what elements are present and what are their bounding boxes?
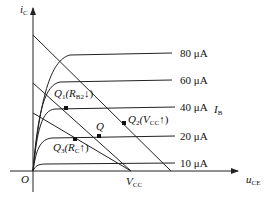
origin-label: O — [21, 174, 29, 185]
q2-label: Q2(VCC↑) — [128, 114, 168, 127]
curve-label-60: 60 μA — [180, 75, 208, 86]
curve-label-80: 80 μA — [180, 48, 208, 59]
q-label: Q — [96, 121, 104, 132]
characteristic-plot — [0, 0, 267, 204]
ib-label: IB — [214, 104, 222, 117]
q1-label: Q1(RB2↓) — [54, 88, 93, 101]
q3-label: Q3(RC↑) — [53, 142, 89, 155]
curve-label-10: 10 μA — [180, 158, 208, 169]
x-axis-label: uCE — [246, 174, 260, 187]
y-axis-label: iC — [20, 4, 28, 17]
vcc-label: VCC — [126, 176, 142, 189]
curve-label-40: 40 μA — [180, 102, 208, 113]
operating-points — [64, 106, 126, 141]
curve-label-20: 20 μA — [180, 131, 208, 142]
